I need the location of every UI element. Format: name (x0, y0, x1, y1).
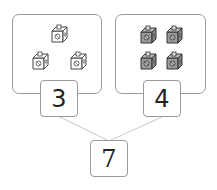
cube-icon (49, 24, 69, 44)
cube-icon (164, 51, 184, 71)
total-label: 7 (101, 147, 116, 171)
cube-icon (164, 25, 184, 45)
right-count-box: 4 (143, 80, 181, 117)
cube-icon (30, 51, 50, 71)
left-count-label: 3 (51, 87, 66, 111)
cube-icon (138, 25, 158, 45)
left-count-box: 3 (40, 80, 78, 117)
right-count-label: 4 (154, 87, 169, 111)
cube-icon (68, 51, 88, 71)
total-box: 7 (90, 140, 128, 177)
cube-icon (138, 51, 158, 71)
